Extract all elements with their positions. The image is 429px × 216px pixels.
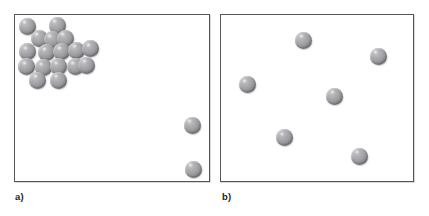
- panel-b: b): [220, 14, 414, 182]
- particle-sphere: [50, 72, 67, 89]
- particle-sphere: [276, 129, 293, 146]
- particle-sphere: [351, 148, 368, 165]
- particle-sphere: [295, 32, 312, 49]
- particle-sphere: [326, 88, 343, 105]
- panel-a: a): [14, 14, 210, 182]
- particle-sphere: [82, 40, 99, 57]
- panel-a-border: [14, 14, 210, 182]
- particle-sphere: [29, 72, 46, 89]
- particle-sphere: [185, 161, 202, 178]
- particle-sphere: [78, 57, 95, 74]
- particle-sphere: [239, 76, 256, 93]
- particle-sphere: [370, 48, 387, 65]
- panel-a-label: a): [15, 191, 24, 202]
- particle-sphere: [184, 117, 201, 134]
- panel-b-border: [220, 14, 414, 182]
- panel-b-label: b): [222, 191, 231, 202]
- figure-root: a) b): [0, 0, 429, 216]
